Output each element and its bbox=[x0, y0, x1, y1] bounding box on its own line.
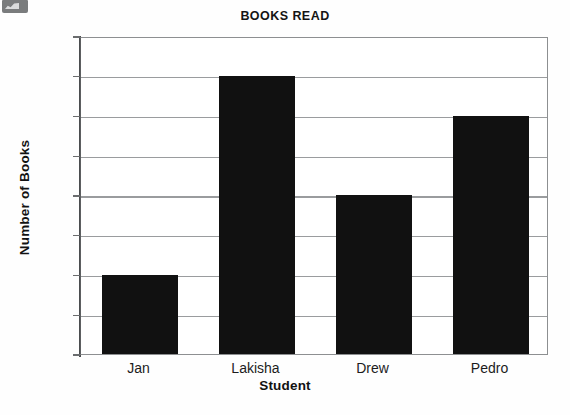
bar bbox=[102, 275, 178, 355]
y-axis-tick-mark bbox=[73, 235, 80, 236]
y-axis-tick-mark bbox=[73, 275, 80, 276]
gridline bbox=[81, 77, 547, 78]
y-axis-tick-mark bbox=[73, 195, 80, 196]
bar bbox=[336, 195, 412, 354]
x-axis-tick-label: Pedro bbox=[471, 360, 508, 376]
y-axis-tick-mark bbox=[73, 116, 80, 117]
bar-chart: BOOKS READ Number of Books 012345678 Jan… bbox=[0, 0, 570, 415]
x-axis-tick-label: Drew bbox=[356, 360, 389, 376]
y-axis-tick-mark bbox=[73, 76, 80, 77]
x-axis-tick-label: Jan bbox=[127, 360, 150, 376]
y-axis-tick-mark bbox=[73, 354, 80, 355]
x-axis-title: Student bbox=[0, 378, 570, 393]
y-axis-tick-mark bbox=[73, 156, 80, 157]
bar bbox=[453, 116, 529, 355]
y-axis-title: Number of Books bbox=[17, 118, 32, 278]
chart-title: BOOKS READ bbox=[0, 9, 570, 23]
bar bbox=[219, 76, 295, 354]
plot-area bbox=[80, 37, 548, 355]
y-axis-tick-mark bbox=[73, 36, 80, 37]
y-axis-tick-mark bbox=[73, 315, 80, 316]
x-axis-tick-label: Lakisha bbox=[231, 360, 279, 376]
